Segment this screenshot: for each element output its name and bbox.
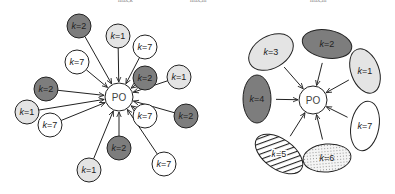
node-label: k=7 — [138, 111, 153, 121]
center-node-po: PO — [105, 83, 133, 111]
node-label: k=5 — [272, 149, 287, 159]
node-label: k=1 — [111, 31, 126, 41]
node-label: k=2 — [179, 111, 194, 121]
node-k2: k=2 — [67, 14, 91, 38]
node-k1: k=1 — [77, 158, 101, 182]
node-k2: k=2 — [107, 136, 131, 160]
edge-arrow — [118, 48, 119, 82]
node-k6: k=6 — [302, 142, 352, 174]
node-k5: k=5 — [248, 126, 309, 182]
node-label: k=2 — [138, 73, 153, 83]
node-label: k=1 — [172, 72, 187, 82]
node-k2: k=2 — [300, 26, 354, 62]
po-label: PO — [112, 92, 127, 103]
edge-arrow — [290, 113, 305, 137]
node-label: k=7 — [358, 121, 373, 131]
node-k3: k=3 — [242, 26, 300, 78]
node-k7: k=7 — [65, 50, 89, 74]
edge-arrow — [317, 63, 323, 86]
edge-arrow — [86, 70, 107, 88]
node-k1: k=1 — [106, 24, 130, 48]
node-label: k=7 — [138, 42, 153, 52]
node-k7: k=7 — [347, 99, 383, 153]
center-node-po: PO — [299, 86, 327, 114]
node-k1: k=1 — [167, 65, 191, 89]
node-label: k=1 — [82, 165, 97, 175]
node-k2: k=2 — [174, 104, 198, 128]
left-diagram: k=2k=1k=7k=7k=2k=1k=2k=1k=7k=7k=2k=2k=1k… — [15, 14, 198, 182]
node-label: k=6 — [320, 153, 335, 163]
node-label: k=2 — [320, 39, 335, 49]
node-k7: k=7 — [133, 104, 157, 128]
node-label: k=1 — [358, 66, 373, 76]
node-k2: k=2 — [34, 77, 58, 101]
edge-arrow — [131, 85, 135, 88]
node-label: k=4 — [250, 94, 265, 104]
diagram-canvas: k=2k=1k=7k=7k=2k=1k=2k=1k=7k=7k=2k=2k=1k… — [0, 0, 395, 194]
node-label: k=2 — [39, 84, 54, 94]
node-label: k=2 — [72, 21, 87, 31]
edge-arrow — [317, 115, 323, 140]
edge-arrow — [326, 80, 349, 93]
po-label: PO — [306, 95, 321, 106]
right-diagram: k=3k=2k=1k=4k=7k=5k=6PO — [242, 26, 386, 182]
node-label: k=3 — [264, 47, 279, 57]
node-k1: k=1 — [15, 100, 39, 124]
edge-arrow — [284, 67, 303, 89]
node-k7: k=7 — [38, 113, 62, 137]
edge-arrow — [58, 90, 104, 95]
node-k7: k=7 — [133, 35, 157, 59]
node-k4: k=4 — [243, 75, 271, 123]
node-k7: k=7 — [152, 152, 176, 176]
edge-arrow — [131, 106, 135, 109]
edge-arrow — [326, 107, 347, 118]
node-label: k=7 — [70, 57, 85, 67]
node-label: k=7 — [157, 159, 172, 169]
node-label: k=2 — [112, 143, 127, 153]
node-label: k=1 — [20, 107, 35, 117]
node-label: k=7 — [43, 120, 58, 130]
node-k2: k=2 — [133, 66, 157, 90]
